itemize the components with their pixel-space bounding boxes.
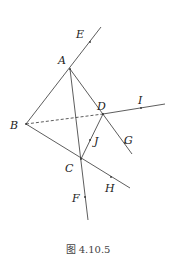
label-e: E <box>75 28 84 41</box>
figure-caption: 图 4.10.5 <box>66 244 111 255</box>
point-f <box>84 196 86 198</box>
point-h <box>110 176 112 178</box>
point-j <box>89 139 91 141</box>
point-e <box>89 41 91 43</box>
label-h: H <box>104 182 115 195</box>
label-c: C <box>65 162 74 175</box>
point-c <box>80 158 82 160</box>
point-i <box>140 107 142 109</box>
point-d <box>102 113 104 115</box>
figure-canvas: ABCDEFGHIJ图 4.10.5 <box>0 0 177 265</box>
point-a <box>69 68 71 70</box>
label-j: J <box>92 135 99 148</box>
label-i: I <box>137 94 143 107</box>
segment-B-D <box>26 114 103 124</box>
geometry-figure: ABCDEFGHIJ图 4.10.5 <box>0 0 177 265</box>
label-f: F <box>71 192 80 205</box>
label-a: A <box>57 54 66 67</box>
segment-C-D <box>81 114 103 159</box>
ray-D-I <box>103 104 165 114</box>
label-d: D <box>96 100 106 113</box>
point-b <box>25 123 27 125</box>
label-g: G <box>124 134 133 147</box>
label-b: B <box>9 119 18 132</box>
